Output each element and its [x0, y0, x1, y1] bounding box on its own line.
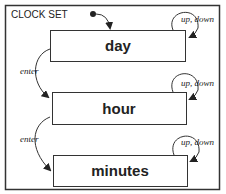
clock-set-statechart: CLOCK SET day up, down enter hour up, do… [0, 0, 226, 194]
state-day-label: day [105, 37, 132, 54]
transition-label-hour-updown: up, down [181, 78, 215, 88]
transition-label-minutes-updown: up, down [181, 137, 215, 147]
transition-label-day-updown: up, down [181, 14, 215, 24]
state-hour-label: hour [102, 100, 135, 117]
initial-transition-arrow [96, 14, 110, 28]
superstate-title: CLOCK SET [11, 9, 68, 20]
transition-label-enter-2: enter [20, 134, 39, 144]
state-day[interactable]: day [51, 31, 186, 62]
transition-label-enter-1: enter [20, 66, 39, 76]
state-minutes-label: minutes [91, 162, 149, 179]
initial-state-dot [90, 11, 96, 17]
state-minutes[interactable]: minutes [54, 156, 188, 187]
state-hour[interactable]: hour [53, 93, 187, 125]
